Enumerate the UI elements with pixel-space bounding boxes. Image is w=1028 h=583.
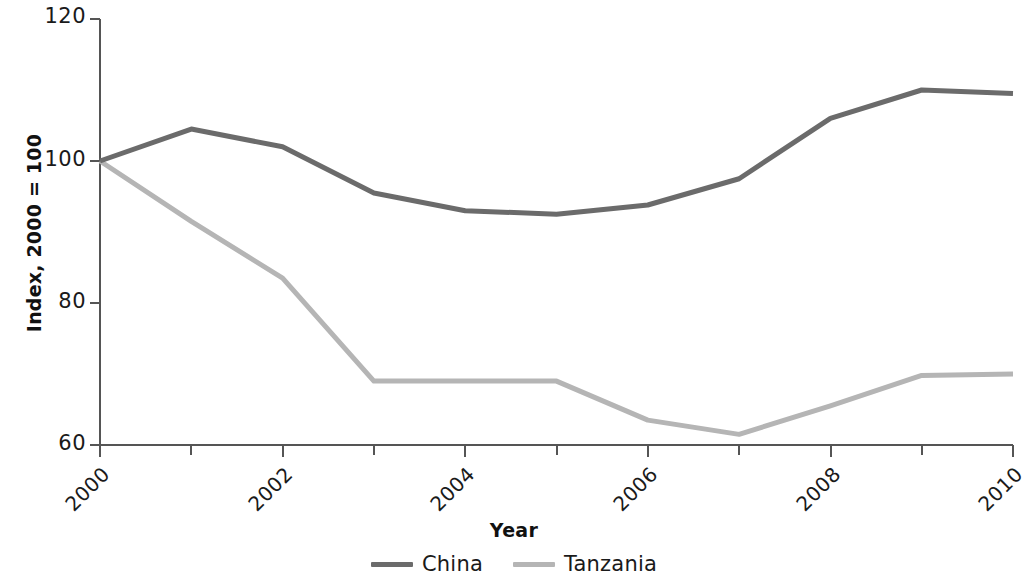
legend-entry-tanzania: Tanzania xyxy=(513,552,657,576)
legend-label-china: China xyxy=(422,552,483,576)
x-axis-ticks xyxy=(100,445,1013,457)
legend-entry-china: China xyxy=(371,552,483,576)
legend-swatch-china xyxy=(371,562,413,567)
legend-label-tanzania: Tanzania xyxy=(564,552,657,576)
data-line-tanzania xyxy=(100,161,1013,434)
x-axis-title: Year xyxy=(0,519,1028,541)
chart-legend: China Tanzania xyxy=(0,552,1028,576)
legend-swatch-tanzania xyxy=(513,562,555,567)
y-axis-ticks xyxy=(90,19,100,445)
plot-area xyxy=(0,0,1028,583)
line-chart: Index, 2000 = 100 120 100 80 60 xyxy=(0,0,1028,583)
data-line-china xyxy=(100,90,1013,214)
